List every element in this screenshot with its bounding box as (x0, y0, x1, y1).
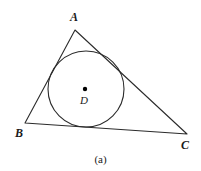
vertex-label-c: C (181, 139, 189, 151)
figure-caption: (a) (0, 153, 201, 166)
center-label-d: D (80, 95, 88, 106)
incenter-point-marker (83, 87, 87, 91)
vertex-label-b: B (15, 127, 23, 139)
geometry-canvas (0, 0, 201, 171)
geometry-figure: A B C D (a) (0, 0, 201, 171)
vertex-label-a: A (70, 11, 78, 23)
triangle-abc-shape (25, 30, 187, 134)
